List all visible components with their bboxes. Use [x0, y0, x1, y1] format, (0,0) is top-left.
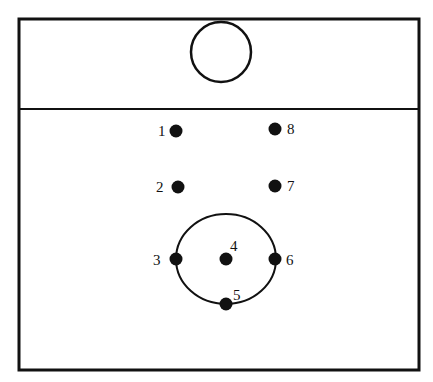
- player-label-4: 4: [230, 238, 238, 254]
- player-dot-7: [269, 180, 282, 193]
- court-boundary: [19, 19, 419, 370]
- player-label-1: 1: [158, 123, 166, 139]
- court-diagram: 12345678: [0, 0, 433, 382]
- player-dot-2: [172, 181, 185, 194]
- player-label-3: 3: [153, 252, 161, 268]
- player-dot-3: [170, 253, 183, 266]
- player-label-7: 7: [287, 178, 295, 194]
- players-group: 12345678: [153, 121, 295, 311]
- player-dot-6: [269, 253, 282, 266]
- player-dot-5: [220, 298, 233, 311]
- player-label-2: 2: [156, 179, 164, 195]
- player-label-5: 5: [233, 287, 241, 303]
- player-dot-4: [220, 253, 233, 266]
- player-dot-8: [269, 123, 282, 136]
- player-label-6: 6: [286, 252, 294, 268]
- top-circle: [191, 22, 251, 82]
- player-label-8: 8: [287, 121, 295, 137]
- player-dot-1: [170, 125, 183, 138]
